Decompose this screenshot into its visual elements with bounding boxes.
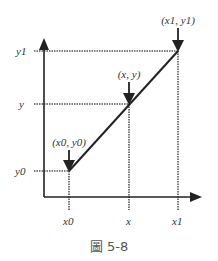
label-y: y <box>18 98 24 110</box>
x-axis-arrow-icon <box>190 192 202 202</box>
label-point-start: (x0, y0) <box>52 136 86 149</box>
label-x1: x1 <box>171 215 182 227</box>
point-markers <box>63 28 184 172</box>
label-x: x <box>125 215 131 227</box>
label-y1: y1 <box>15 45 26 57</box>
label-point-end: (x1, y1) <box>161 14 195 27</box>
label-y0: y0 <box>14 165 26 177</box>
figure-caption: 圖 5-8 <box>0 236 218 255</box>
line-interpolation-diagram: y1 y y0 x0 x x1 (x0, y0) (x, y) (x1, y1) <box>0 0 218 261</box>
y-axis-arrow-icon <box>39 38 49 50</box>
label-x0: x0 <box>62 215 74 227</box>
arrow-down-icon <box>172 40 184 52</box>
label-point-mid: (x, y) <box>118 68 141 81</box>
